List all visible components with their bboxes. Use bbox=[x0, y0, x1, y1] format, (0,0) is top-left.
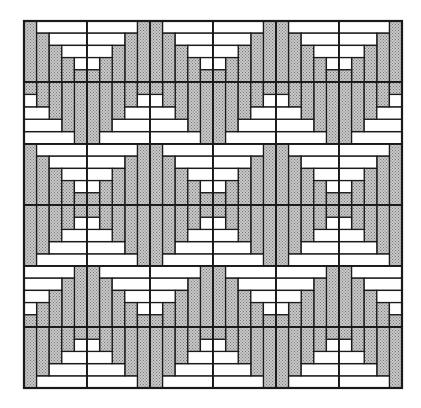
white-horizontal-log bbox=[24, 303, 37, 315]
white-horizontal-log bbox=[213, 58, 226, 70]
gray-vertical-log bbox=[150, 144, 163, 205]
gray-vertical-log bbox=[125, 82, 138, 107]
white-horizontal-log bbox=[339, 351, 364, 363]
gray-vertical-log bbox=[125, 205, 138, 254]
center-square bbox=[74, 193, 87, 205]
white-horizontal-log bbox=[213, 217, 226, 229]
quilt-block bbox=[339, 21, 402, 82]
white-horizontal-log bbox=[339, 181, 352, 193]
gray-vertical-log bbox=[125, 156, 138, 205]
white-horizontal-log bbox=[24, 266, 74, 278]
white-horizontal-log bbox=[238, 119, 276, 131]
center-square bbox=[326, 205, 339, 217]
gray-vertical-log bbox=[112, 45, 125, 82]
white-horizontal-log bbox=[62, 45, 87, 57]
white-horizontal-log bbox=[87, 351, 112, 363]
gray-vertical-log bbox=[352, 181, 365, 205]
white-horizontal-log bbox=[301, 156, 339, 168]
white-horizontal-log bbox=[301, 242, 339, 254]
quilt-block bbox=[87, 82, 150, 144]
white-horizontal-log bbox=[226, 266, 276, 278]
white-horizontal-log bbox=[314, 168, 339, 180]
quilt-block bbox=[213, 82, 276, 144]
gray-vertical-log bbox=[251, 303, 264, 327]
gray-vertical-log bbox=[112, 205, 125, 242]
gray-vertical-log bbox=[326, 266, 339, 327]
quilt-block bbox=[24, 205, 87, 266]
white-horizontal-log bbox=[163, 254, 213, 266]
white-horizontal-log bbox=[251, 290, 276, 302]
gray-vertical-log bbox=[238, 168, 251, 205]
gray-vertical-log bbox=[314, 278, 327, 327]
gray-vertical-log bbox=[301, 45, 314, 82]
gray-vertical-log bbox=[352, 82, 365, 132]
gray-vertical-log bbox=[49, 205, 62, 242]
white-horizontal-log bbox=[377, 290, 402, 302]
white-horizontal-log bbox=[289, 21, 339, 33]
gray-vertical-log bbox=[238, 327, 251, 364]
gray-vertical-log bbox=[301, 168, 314, 205]
center-square bbox=[87, 70, 100, 82]
gray-vertical-log bbox=[289, 82, 302, 107]
white-horizontal-log bbox=[125, 290, 150, 302]
gray-vertical-log bbox=[389, 205, 402, 266]
white-horizontal-log bbox=[37, 376, 87, 388]
white-horizontal-log bbox=[314, 351, 339, 363]
white-horizontal-log bbox=[163, 376, 213, 388]
quilt-block bbox=[276, 205, 339, 266]
white-horizontal-log bbox=[339, 156, 377, 168]
quilt-block bbox=[87, 205, 150, 266]
quilt-block bbox=[213, 205, 276, 266]
white-horizontal-log bbox=[276, 290, 301, 302]
center-square bbox=[263, 315, 276, 327]
white-horizontal-log bbox=[238, 278, 276, 290]
quilt-block bbox=[150, 205, 213, 266]
gray-vertical-log bbox=[150, 205, 163, 266]
gray-vertical-log bbox=[377, 205, 390, 254]
gray-vertical-log bbox=[188, 327, 201, 351]
gray-vertical-log bbox=[238, 82, 251, 119]
center-square bbox=[263, 82, 276, 94]
gray-vertical-log bbox=[49, 45, 62, 82]
gray-vertical-log bbox=[251, 82, 264, 107]
gray-vertical-log bbox=[24, 21, 37, 82]
gray-vertical-log bbox=[24, 205, 37, 266]
quilt-block bbox=[339, 144, 402, 205]
gray-vertical-log bbox=[226, 327, 239, 351]
gray-vertical-log bbox=[276, 205, 289, 266]
gray-vertical-log bbox=[389, 144, 402, 205]
gray-vertical-log bbox=[74, 266, 87, 327]
white-horizontal-log bbox=[276, 132, 326, 144]
white-horizontal-log bbox=[49, 156, 87, 168]
gray-vertical-log bbox=[188, 181, 201, 205]
white-horizontal-log bbox=[289, 376, 339, 388]
gray-vertical-log bbox=[200, 82, 213, 144]
gray-vertical-log bbox=[352, 278, 365, 327]
gray-vertical-log bbox=[226, 82, 239, 132]
white-horizontal-log bbox=[87, 181, 100, 193]
white-horizontal-log bbox=[150, 119, 188, 131]
gray-vertical-log bbox=[352, 205, 365, 229]
gray-vertical-log bbox=[62, 327, 75, 351]
white-horizontal-log bbox=[87, 242, 125, 254]
gray-vertical-log bbox=[238, 205, 251, 242]
white-horizontal-log bbox=[289, 144, 339, 156]
gray-vertical-log bbox=[251, 156, 264, 205]
center-square bbox=[389, 315, 402, 327]
white-horizontal-log bbox=[112, 119, 150, 131]
gray-vertical-log bbox=[238, 45, 251, 82]
white-horizontal-log bbox=[339, 376, 389, 388]
white-horizontal-log bbox=[188, 168, 213, 180]
white-horizontal-log bbox=[200, 217, 213, 229]
quilt-block bbox=[213, 266, 276, 327]
center-square bbox=[200, 70, 213, 82]
white-horizontal-log bbox=[87, 254, 137, 266]
gray-vertical-log bbox=[100, 181, 113, 205]
gray-vertical-log bbox=[251, 327, 264, 376]
white-horizontal-log bbox=[339, 217, 352, 229]
quilt-block bbox=[276, 144, 339, 205]
gray-vertical-log bbox=[314, 58, 327, 82]
gray-vertical-log bbox=[364, 45, 377, 82]
gray-vertical-log bbox=[175, 82, 188, 119]
white-horizontal-log bbox=[314, 45, 339, 57]
